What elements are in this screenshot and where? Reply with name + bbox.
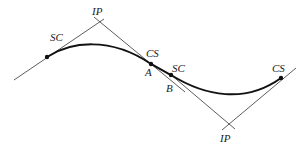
tangent-line-3 <box>170 74 235 129</box>
reverse-curve-diagram: SC IP CS A SC B IP CS <box>0 0 300 147</box>
label-cs2: CS <box>272 62 285 74</box>
tangent-line-4 <box>222 68 296 130</box>
cs2-point <box>279 76 283 80</box>
tangent-line-1 <box>14 19 104 80</box>
label-sc1: SC <box>50 31 64 43</box>
label-a: A <box>144 66 152 78</box>
label-sc2: SC <box>172 62 186 74</box>
label-ip1: IP <box>91 5 103 17</box>
tangent-line-2 <box>94 17 185 92</box>
alignment-curve <box>47 44 281 94</box>
label-cs1: CS <box>146 47 159 59</box>
label-b: B <box>166 82 173 94</box>
label-ip2: IP <box>219 132 231 144</box>
sc1-point <box>45 55 49 59</box>
